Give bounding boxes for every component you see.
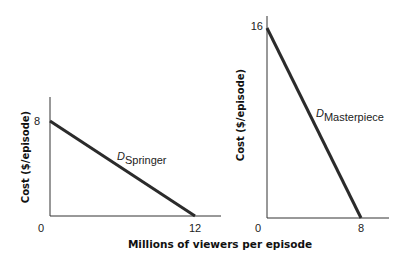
springer-x-tick-0: 0 bbox=[38, 222, 44, 234]
springer-curve-label: DSpringer bbox=[117, 150, 167, 166]
springer-y-tick-8: 8 bbox=[34, 115, 40, 127]
springer-chart: 8 0 12 Cost ($/episode) DSpringer bbox=[20, 97, 221, 234]
springer-curve-label-sub: Springer bbox=[125, 154, 167, 166]
masterpiece-demand-curve bbox=[267, 28, 361, 218]
springer-curve-label-main: D bbox=[117, 150, 125, 162]
springer-demand-curve bbox=[50, 121, 195, 216]
masterpiece-curve-label-main: D bbox=[316, 107, 324, 119]
masterpiece-chart: 16 0 8 Cost ($/episode) DMasterpiece bbox=[235, 16, 389, 234]
demand-charts: 8 0 12 Cost ($/episode) DSpringer 16 0 8… bbox=[0, 0, 407, 263]
masterpiece-curve-label-sub: Masterpiece bbox=[324, 111, 384, 123]
springer-x-tick-12: 12 bbox=[189, 222, 201, 234]
springer-y-axis-label: Cost ($/episode) bbox=[20, 111, 31, 203]
masterpiece-x-tick-8: 8 bbox=[358, 222, 364, 234]
masterpiece-y-tick-16: 16 bbox=[251, 20, 263, 32]
masterpiece-x-tick-0: 0 bbox=[255, 222, 261, 234]
masterpiece-y-axis-label: Cost ($/episode) bbox=[235, 69, 246, 161]
masterpiece-curve-label: DMasterpiece bbox=[316, 107, 384, 123]
x-axis-label: Millions of viewers per episode bbox=[128, 238, 312, 250]
